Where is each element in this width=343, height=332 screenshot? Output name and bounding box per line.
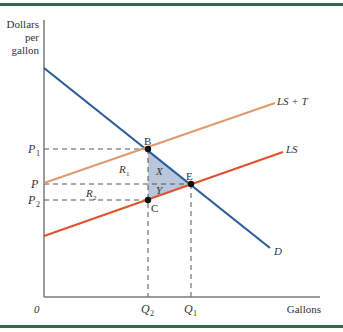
p1-label: P <box>27 142 36 156</box>
tax-incidence-diagram: Dollars per gallon P 1 P P 2 0 Q 2 Q 1 G… <box>0 0 343 332</box>
r2-subscript: 2 <box>93 194 97 202</box>
q2-subscript: 2 <box>150 309 154 318</box>
q1-subscript: 1 <box>193 309 197 318</box>
p-label: P <box>30 177 39 191</box>
point-b-label: B <box>144 135 151 147</box>
point-c-label: C <box>151 202 158 214</box>
p2-label: P <box>27 193 36 207</box>
y-axis-label-line1: Dollars <box>7 18 39 30</box>
p1-subscript: 1 <box>36 149 40 158</box>
r1-label: R <box>118 163 126 175</box>
x-region-label: X <box>155 165 164 177</box>
ls-label: LS <box>285 143 298 155</box>
y-axis-label-line3: gallon <box>12 44 40 56</box>
y-axis-label-line2: per <box>25 31 39 43</box>
demand-label: D <box>273 245 282 257</box>
q1-label: Q <box>184 302 193 316</box>
p2-subscript: 2 <box>36 200 40 209</box>
origin-label: 0 <box>34 303 40 315</box>
point-e-label: E <box>186 170 193 182</box>
x-axis-label: Gallons <box>287 303 321 315</box>
r1-subscript: 1 <box>126 170 130 178</box>
q2-label: Q <box>141 302 150 316</box>
ls-plus-t-label: LS + T <box>276 95 309 107</box>
demand-curve <box>44 68 270 248</box>
r2-label: R <box>85 187 93 199</box>
